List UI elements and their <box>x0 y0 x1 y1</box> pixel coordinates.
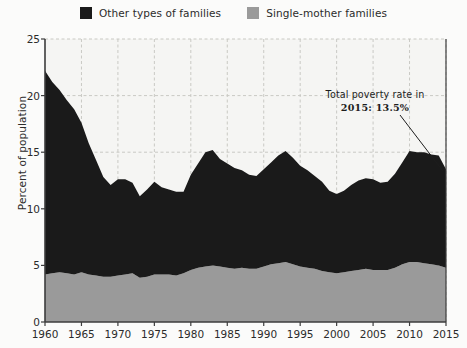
legend-swatch-single-mother-families <box>247 7 259 19</box>
legend-swatch-other-families <box>80 7 92 19</box>
y-tick-label-25: 25 <box>14 33 40 45</box>
x-tick-label-2015: 2015 <box>423 328 467 340</box>
legend-item-single-mother-families[interactable]: Single-mother families <box>247 7 387 19</box>
poverty-rate-chart: Other types of families Single-mother fa… <box>0 0 467 348</box>
legend-item-other-families[interactable]: Other types of families <box>80 7 221 19</box>
total-poverty-annotation: Total poverty rate in 2015: 13.5% <box>311 88 439 114</box>
annotation-line-1: Total poverty rate in <box>326 89 425 100</box>
chart-legend: Other types of families Single-mother fa… <box>0 7 467 19</box>
y-axis-tick-labels: 0510152025 <box>10 0 40 348</box>
y-tick-label-0: 0 <box>14 316 40 328</box>
x-axis-tick-labels: 1960196519701975198019851990199520002005… <box>0 328 467 348</box>
y-tick-label-20: 20 <box>14 90 40 102</box>
chart-plot-area <box>0 0 467 348</box>
y-tick-label-15: 15 <box>14 146 40 158</box>
legend-label-other-families: Other types of families <box>99 7 221 19</box>
legend-label-single-mother-families: Single-mother families <box>266 7 387 19</box>
y-tick-label-5: 5 <box>14 259 40 271</box>
y-tick-label-10: 10 <box>14 203 40 215</box>
annotation-line-2: 2015: 13.5% <box>311 101 439 114</box>
